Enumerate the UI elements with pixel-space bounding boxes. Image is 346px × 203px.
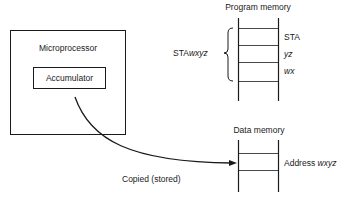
program-memory-stack [239,18,279,101]
copy-arrow-curve [75,97,232,163]
data-memory-cell-operand: wxyz [318,158,338,168]
microprocessor-label: Microprocessor [39,43,97,53]
accumulator-label: Accumulator [46,73,93,83]
diagram-canvas: Microprocessor Accumulator Program memor… [0,0,346,203]
program-memory-cell-wx: wx [284,66,295,76]
copy-arrow-label: Copied (stored) [122,174,181,184]
instruction-label-opcode: STA [173,48,189,58]
data-memory-stack [239,140,279,192]
program-memory-cell-sta: STA [284,32,300,42]
arrowhead-icon [229,160,237,166]
data-memory-cell-label: Address wxyz [284,158,337,168]
instruction-label: STAwxyz [173,48,209,58]
data-memory-title: Data memory [233,125,285,135]
curly-brace-icon [224,28,233,81]
program-memory-cell-yz: yz [283,49,293,59]
instruction-label-operand: wxyz [189,48,209,58]
program-memory-title: Program memory [225,2,291,12]
data-memory-cell-prefix: Address [284,158,318,168]
